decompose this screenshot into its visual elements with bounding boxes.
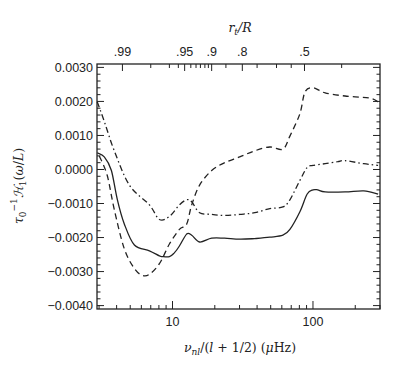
y-tick-label: −0.0030: [47, 265, 93, 279]
x-tick-label: 100: [303, 315, 324, 329]
top-tick-label: .99: [114, 45, 131, 59]
y-axis-title: τ0−1ℋ1(ω/L): [9, 148, 28, 224]
y-tick-label: −0.0020: [47, 231, 93, 245]
y-tick-label: 0.0000: [55, 163, 93, 177]
top-tick-label: .95: [176, 45, 193, 59]
plot-curves: [97, 88, 378, 276]
tick-labels: 0.00300.00200.00100.0000−0.0010−0.0020−0…: [47, 45, 323, 329]
y-tick-label: 0.0030: [55, 61, 93, 75]
top-axis-title: rt/R: [228, 20, 251, 37]
y-tick-label: 0.0020: [55, 95, 93, 109]
series-dashed: [99, 88, 378, 276]
top-tick-label: .5: [299, 45, 309, 59]
x-axis-title: νnl/(l + 1/2) (μHz): [184, 340, 296, 357]
series-solid: [97, 153, 378, 257]
top-tick-label: .9: [206, 45, 216, 59]
x-tick-label: 10: [166, 315, 180, 329]
plot-frame: [97, 64, 380, 309]
y-tick-label: −0.0010: [47, 197, 93, 211]
y-tick-label: −0.0040: [47, 299, 93, 313]
axis-ticks: [97, 64, 380, 309]
top-tick-label: .8: [237, 45, 247, 59]
chart-canvas: 0.00300.00200.00100.0000−0.0010−0.0020−0…: [0, 0, 399, 369]
series-dash-dot: [97, 102, 378, 220]
y-tick-label: 0.0010: [55, 129, 93, 143]
